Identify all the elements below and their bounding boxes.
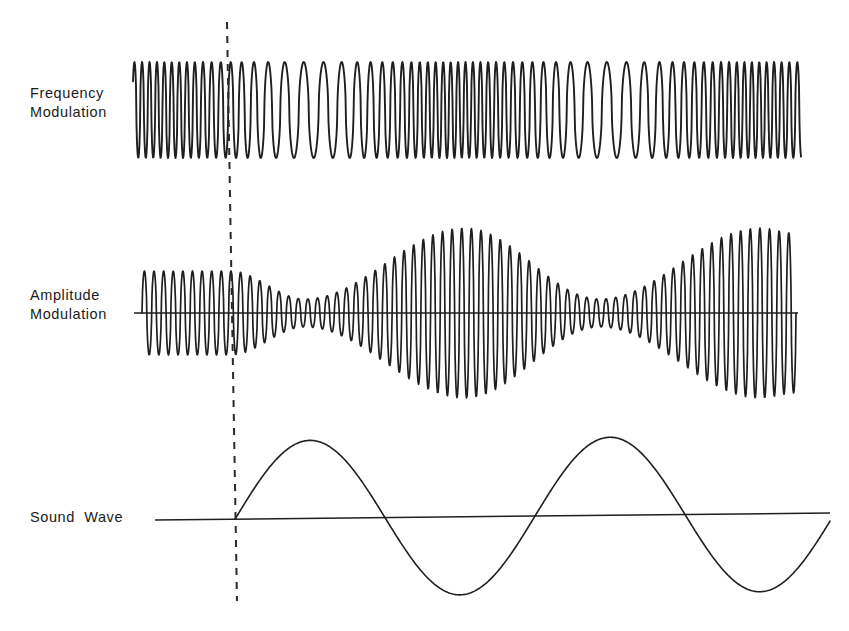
frequency-modulation-group [133, 62, 801, 158]
amplitude-modulation-label: Amplitude Modulation [30, 286, 107, 324]
sound-wave-axis [155, 513, 830, 520]
waveform-plot [0, 0, 849, 631]
sound-wave-group [155, 437, 830, 595]
sound-wave-label: Sound Wave [30, 508, 123, 527]
frequency-modulation-label: Frequency Modulation [30, 84, 107, 122]
frequency-modulation-path [133, 62, 801, 158]
modulation-figure: Frequency Modulation Amplitude Modulatio… [0, 0, 849, 631]
